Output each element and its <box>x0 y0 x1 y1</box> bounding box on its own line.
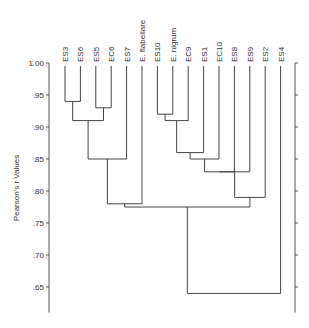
leaf-label: ES6 <box>76 46 85 62</box>
dendrogram-chart: 1.00.95.90.85.80.75.70.65 ES3ES6ES5EC6ES… <box>0 0 309 328</box>
leaf-label: E. nigrum <box>169 27 178 62</box>
y-tick-label: .95 <box>33 91 45 100</box>
leaf-label: ES5 <box>92 46 101 62</box>
leaf-label: ES7 <box>123 46 132 62</box>
leaf-label: ES1 <box>200 46 209 62</box>
leaf-label: E. flabellare <box>138 19 147 62</box>
leaf-label: ES8 <box>230 46 239 62</box>
dendrogram-links <box>65 66 281 293</box>
leaf-label: ES3 <box>61 46 70 62</box>
leaf-label: EC6 <box>107 46 116 62</box>
leaf-label: EC9 <box>184 46 193 62</box>
y-axis-label: Pearson's r Values <box>12 155 21 221</box>
y-tick-label: .70 <box>33 251 45 260</box>
y-tick-label: 1.00 <box>28 59 44 68</box>
y-tick-label: .90 <box>33 123 45 132</box>
y-tick-label: .80 <box>33 187 45 196</box>
y-axis: 1.00.95.90.85.80.75.70.65 <box>28 59 49 313</box>
y-tick-label: .85 <box>33 155 45 164</box>
leaf-label: EC10 <box>215 41 224 62</box>
leaf-label: ES10 <box>153 42 162 62</box>
leaf-label: ES4 <box>277 46 286 62</box>
y-tick-label: .65 <box>33 283 45 292</box>
leaf-label: ES2 <box>261 46 270 62</box>
y-tick-label: .75 <box>33 219 45 228</box>
right-axis <box>295 63 298 313</box>
leaf-label: ES9 <box>246 46 255 62</box>
leaf-labels: ES3ES6ES5EC6ES7E. flabellareES10E. nigru… <box>61 19 286 62</box>
